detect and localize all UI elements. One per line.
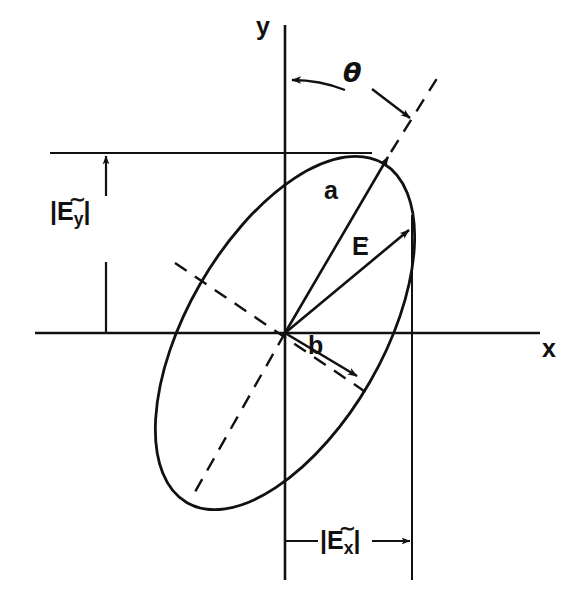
theta-arrow-to-major-axis (372, 89, 410, 118)
vector-E (285, 230, 409, 333)
ex-tilde: ∼ (339, 519, 356, 539)
x-axis-label: x (542, 336, 556, 361)
ex-magnitude-label: |∼Ex| (320, 528, 360, 558)
ey-magnitude-label: |∼Ey| (50, 199, 90, 229)
ex-e-glyph: ∼E (327, 528, 344, 553)
y-axis-label: y (256, 14, 270, 39)
theta-label: θ (343, 59, 362, 86)
ey-e-glyph: ∼E (57, 199, 74, 224)
vector-a-label: a (324, 178, 338, 203)
vector-b-label: b (308, 333, 323, 358)
vector-E-label: → E (352, 234, 369, 259)
major-axis-dashed-lower (191, 333, 285, 499)
ey-tilde: ∼ (69, 190, 86, 210)
ey-bar-left: | (50, 197, 57, 225)
figure-canvas: y x θ a b → E |∼Ey| |∼Ex| (0, 0, 570, 608)
vector-E-glyph: → E (352, 234, 369, 259)
major-axis-dashed-upper (391, 72, 441, 152)
ex-bar-left: | (320, 526, 327, 554)
ex-subscript: x (344, 538, 354, 558)
polarization-ellipse-figure (0, 0, 570, 608)
ey-subscript: y (74, 209, 84, 229)
theta-arc-arrow-to-y-axis (292, 80, 345, 90)
vector-arrow-overbar: → (352, 226, 372, 246)
